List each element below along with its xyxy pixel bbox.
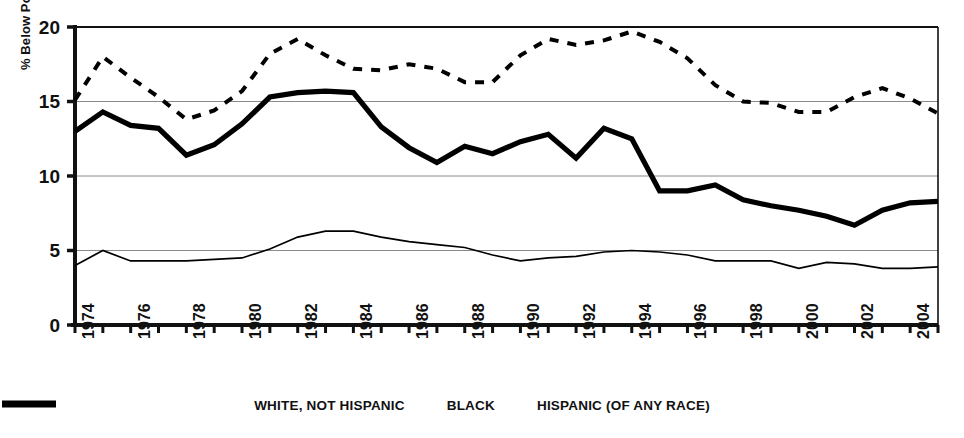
legend-item-white: WHITE, NOT HISPANIC xyxy=(254,398,405,413)
x-tick-label-1976: 1976 xyxy=(137,303,153,339)
plot-area xyxy=(0,0,964,438)
legend-label-black: BLACK xyxy=(447,398,495,413)
x-tick-label-1988: 1988 xyxy=(471,303,487,339)
x-tick-label-1974: 1974 xyxy=(81,303,97,339)
series-black xyxy=(75,91,938,225)
x-tick-label-1994: 1994 xyxy=(638,303,654,339)
x-tick-label-2004: 2004 xyxy=(916,303,932,339)
x-tick-label-1986: 1986 xyxy=(415,303,431,339)
x-tick-label-2002: 2002 xyxy=(860,303,876,339)
series-white-not-hispanic xyxy=(75,231,938,268)
chart-legend: WHITE, NOT HISPANIC BLACK HISPANIC (OF A… xyxy=(0,398,964,413)
x-tick-label-2000: 2000 xyxy=(805,303,821,339)
dashed-line-swatch xyxy=(0,398,58,410)
series-hispanic-of-any-race xyxy=(75,31,938,119)
legend-item-hispanic: HISPANIC (OF ANY RACE) xyxy=(537,398,710,413)
x-tick-label-1978: 1978 xyxy=(192,303,208,339)
x-tick-label-1990: 1990 xyxy=(526,303,542,339)
x-tick-label-1982: 1982 xyxy=(304,303,320,339)
x-tick-label-1984: 1984 xyxy=(359,303,375,339)
x-tick-label-1996: 1996 xyxy=(693,303,709,339)
x-tick-label-1992: 1992 xyxy=(582,303,598,339)
legend-label-white: WHITE, NOT HISPANIC xyxy=(254,398,405,413)
legend-label-hispanic: HISPANIC (OF ANY RACE) xyxy=(537,398,710,413)
poverty-rate-line-chart: % Below Poverty Level 20 15 10 5 0 19741… xyxy=(0,0,964,438)
x-tick-label-1998: 1998 xyxy=(749,303,765,339)
legend-item-black: BLACK xyxy=(447,398,495,413)
x-tick-label-1980: 1980 xyxy=(248,303,264,339)
